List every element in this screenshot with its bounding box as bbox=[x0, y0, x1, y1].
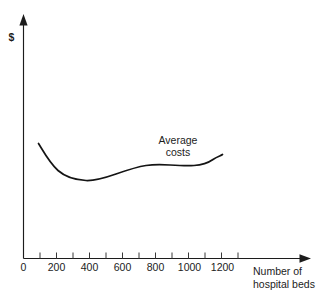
chart-container: $ 0 200 400 bbox=[0, 0, 331, 300]
average-cost-curve-chart: $ 0 200 400 bbox=[0, 0, 331, 300]
x-axis-title-line2: hospital beds bbox=[253, 278, 315, 290]
x-axis-title-line1: Number of bbox=[253, 265, 302, 277]
tick-label-1000: 1000 bbox=[178, 261, 202, 273]
y-axis-label: $ bbox=[9, 31, 15, 43]
tick-label-0: 0 bbox=[21, 261, 27, 273]
tick-label-200: 200 bbox=[48, 261, 66, 273]
annotation-line1: Average bbox=[159, 134, 198, 146]
tick-label-600: 600 bbox=[114, 261, 132, 273]
tick-label-400: 400 bbox=[81, 261, 99, 273]
tick-label-800: 800 bbox=[147, 261, 165, 273]
tick-label-1200: 1200 bbox=[211, 261, 235, 273]
annotation-line2: costs bbox=[166, 146, 191, 158]
